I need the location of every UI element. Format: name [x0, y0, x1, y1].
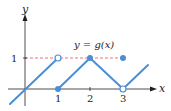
function-label: y = g(x) [73, 39, 114, 50]
filled-point-2-1 [87, 55, 93, 61]
tick-label-x1: 1 [55, 93, 61, 104]
tick-label-x2: 2 [87, 93, 93, 104]
open-point-1-1 [55, 55, 61, 61]
filled-point-1-0 [55, 86, 61, 92]
function-graph: y x 1 1 2 3 y = g(x) [0, 0, 171, 111]
tick-label-y1: 1 [11, 53, 17, 64]
tick-label-x3: 3 [120, 93, 126, 104]
curve-segment-2 [58, 58, 121, 89]
x-axis-arrow-icon [150, 87, 157, 92]
filled-point-3-1 [120, 55, 126, 61]
curve-segment-3 [125, 65, 148, 87]
curve-segment-1 [10, 60, 56, 104]
y-axis-label: y [21, 3, 29, 16]
open-point-3-0 [120, 86, 126, 92]
x-axis-label: x [159, 82, 166, 95]
